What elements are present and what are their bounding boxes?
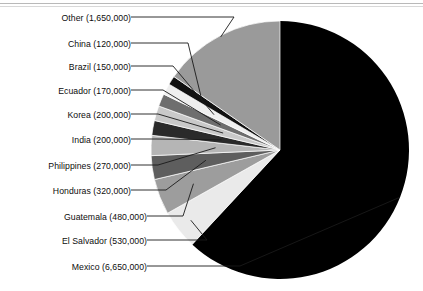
label-ecuador: Ecuador (170,000) <box>58 86 131 96</box>
label-guatemala: Guatemala (480,000) <box>64 212 147 222</box>
label-other: Other (1,650,000) <box>62 13 131 23</box>
label-philippines: Philippines (270,000) <box>48 161 131 171</box>
label-korea: Korea (200,000) <box>67 110 131 120</box>
leader-line-other <box>131 17 234 37</box>
label-honduras: Honduras (320,000) <box>53 186 131 196</box>
label-india: India (200,000) <box>72 135 131 145</box>
label-china: China (120,000) <box>68 39 131 49</box>
pie-chart-figure: Other (1,650,000) China (120,000) Brazil… <box>0 0 423 291</box>
label-brazil: Brazil (150,000) <box>69 62 131 72</box>
label-el-salvador: El Salvador (530,000) <box>62 236 147 246</box>
pie-chart-canvas <box>0 0 423 291</box>
label-mexico: Mexico (6,650,000) <box>72 262 147 272</box>
